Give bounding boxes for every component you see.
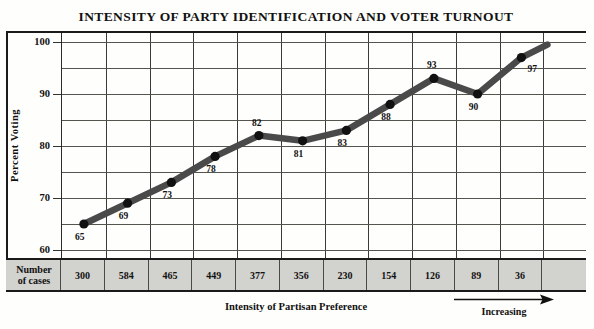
data-series-line <box>62 33 586 258</box>
table-cell-cases: 89 <box>455 260 499 290</box>
y-axis-title: Percent Voting <box>9 109 20 182</box>
plot-area: 6569737882818388939097 <box>61 33 586 258</box>
data-point-label: 82 <box>252 119 262 129</box>
y-axis-title-wrap: Percent Voting <box>6 33 22 258</box>
chart-title: INTENSITY OF PARTY IDENTIFICATION AND VO… <box>79 9 514 25</box>
data-point-label: 81 <box>294 150 304 160</box>
data-point-marker <box>167 178 176 187</box>
data-point-label: 93 <box>427 61 437 71</box>
table-cell-cases: 300 <box>61 260 105 290</box>
y-tick-label-80: 80 <box>24 141 50 152</box>
data-point-label: 69 <box>119 212 129 222</box>
data-point-label: 83 <box>337 139 347 149</box>
y-tick-label-60: 60 <box>24 245 50 256</box>
table-cell-cases: 154 <box>367 260 411 290</box>
data-point-label: 97 <box>527 65 537 75</box>
chart-title-box: INTENSITY OF PARTY IDENTIFICATION AND VO… <box>6 3 586 33</box>
data-point-marker <box>386 100 395 109</box>
y-tick-label-100: 100 <box>24 37 50 48</box>
data-point-label: 90 <box>469 103 479 113</box>
data-point-marker <box>211 152 220 161</box>
table-cell-cases: 584 <box>105 260 149 290</box>
data-point-marker <box>298 136 307 145</box>
table-cell-cases: 230 <box>324 260 368 290</box>
table-cell-cases: 449 <box>192 260 236 290</box>
table-cell-cases: 126 <box>411 260 455 290</box>
table-cell-empty <box>542 260 586 290</box>
data-point-marker <box>517 53 526 62</box>
data-point-marker <box>254 131 263 140</box>
table-row-header: Numberof cases <box>6 260 61 290</box>
data-point-marker <box>123 199 132 208</box>
data-point-marker <box>342 126 351 135</box>
increasing-label: Increasing <box>444 307 564 317</box>
data-point-label: 65 <box>75 233 85 243</box>
increasing-indicator: Increasing <box>444 293 564 317</box>
table-cell-cases: 36 <box>499 260 543 290</box>
table-header-line-1: Number <box>16 264 52 276</box>
table-header-line-2: of cases <box>16 275 52 287</box>
y-tick-label-90: 90 <box>24 89 50 100</box>
data-point-label: 73 <box>162 191 172 201</box>
right-arrow-icon <box>452 293 556 306</box>
table-cell-cases: 377 <box>236 260 280 290</box>
data-point-label: 78 <box>206 165 216 175</box>
table-cell-cases: 465 <box>149 260 193 290</box>
table-cell-cases: 356 <box>280 260 324 290</box>
x-axis-band: Intensity of Partisan Preference Increas… <box>6 292 586 323</box>
data-point-marker <box>79 219 88 228</box>
y-tick-label-70: 70 <box>24 193 50 204</box>
data-point-label: 88 <box>381 113 391 123</box>
chart-figure: INTENSITY OF PARTY IDENTIFICATION AND VO… <box>0 0 594 329</box>
cases-table-row: Numberof cases30058446544937735623015412… <box>6 258 586 292</box>
data-point-marker <box>429 74 438 83</box>
data-point-marker <box>473 89 482 98</box>
